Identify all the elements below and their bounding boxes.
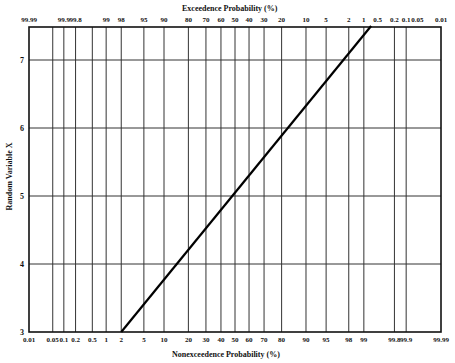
bottom-tick-label: 0.2 (71, 336, 80, 344)
top-tick-label: 10 (302, 16, 309, 24)
y-tick-label: 7 (20, 56, 24, 65)
bottom-tick-label: 20 (185, 336, 192, 344)
top-tick-label: 99.99 (21, 16, 37, 24)
top-tick-label: 0.05 (411, 16, 423, 24)
y-tick-label: 6 (20, 124, 24, 133)
top-tick-label: 2 (347, 16, 351, 24)
bottom-tick-label: 0.05 (47, 336, 59, 344)
top-tick-label: 5 (324, 16, 328, 24)
y-tick-label: 3 (20, 328, 24, 337)
bottom-tick-label: 98 (345, 336, 352, 344)
bottom-tick-label: 40 (217, 336, 224, 344)
top-tick-label: 95 (140, 16, 147, 24)
top-tick-label: 80 (185, 16, 192, 24)
top-tick-label: 0.01 (435, 16, 447, 24)
top-tick-label: 99.8 (69, 16, 81, 24)
bottom-tick-label: 80 (278, 336, 285, 344)
top-tick-label: 99 (103, 16, 110, 24)
bottom-tick-label: 2 (119, 336, 123, 344)
y-axis-title: Random Variable X (5, 142, 14, 212)
top-tick-label: 0.1 (402, 16, 411, 24)
top-tick-label: 0.2 (390, 16, 399, 24)
top-tick-label: 90 (161, 16, 168, 24)
bottom-tick-label: 99.99 (433, 336, 449, 344)
top-tick-label: 50 (232, 16, 239, 24)
bottom-tick-label: 50 (232, 336, 239, 344)
top-tick-label: 60 (217, 16, 224, 24)
bottom-tick-label: 1 (104, 336, 108, 344)
bottom-tick-label: 0.01 (23, 336, 35, 344)
y-tick-label: 4 (20, 260, 24, 269)
bottom-tick-label: 95 (323, 336, 330, 344)
bottom-tick-label: 90 (302, 336, 309, 344)
bottom-tick-label: 70 (261, 336, 268, 344)
bottom-tick-label: 99.8 (388, 336, 400, 344)
top-tick-label: 98 (118, 16, 125, 24)
top-tick-label: 1 (362, 16, 366, 24)
bottom-tick-label: 99 (360, 336, 367, 344)
bottom-tick-label: 0.1 (59, 336, 68, 344)
top-tick-label: 40 (246, 16, 253, 24)
top-tick-label: 20 (278, 16, 285, 24)
bottom-tick-label: 60 (246, 336, 253, 344)
distribution-line (121, 26, 371, 332)
bottom-tick-label: 99.9 (400, 336, 412, 344)
bottom-tick-label: 10 (161, 336, 168, 344)
top-tick-label: 70 (202, 16, 209, 24)
bottom-tick-label: 30 (202, 336, 209, 344)
top-tick-label: 30 (261, 16, 268, 24)
top-tick-label: 99.9 (58, 16, 70, 24)
top-tick-label: 0.5 (373, 16, 382, 24)
x-axis-title: Nonexceedence Probability (%) (172, 350, 280, 359)
top-axis-title: Exceedence Probability (%) (182, 4, 277, 13)
bottom-tick-label: 0.5 (88, 336, 97, 344)
y-tick-label: 5 (20, 192, 24, 201)
bottom-tick-label: 5 (142, 336, 146, 344)
probability-plot (0, 0, 455, 363)
